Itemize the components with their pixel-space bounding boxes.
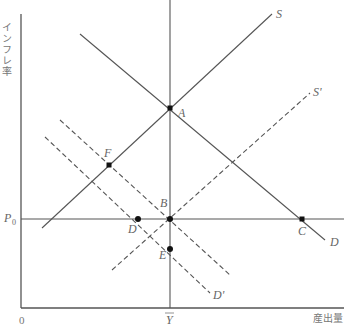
supply-curve-s — [42, 14, 272, 228]
label-s: S — [276, 7, 282, 21]
demand-curve-d — [80, 34, 325, 240]
svg-text:インフレ率: インフレ率 — [1, 22, 12, 77]
point-f — [107, 163, 112, 168]
svg-text:P: P — [3, 211, 12, 225]
y-axis-label: インフレ率 — [1, 22, 12, 77]
label-s-prime: S' — [313, 85, 322, 99]
label-point-c: C — [298, 224, 307, 238]
label-point-e: E — [158, 248, 167, 262]
x-axis-label: 産出量 — [313, 312, 343, 324]
point-c — [300, 217, 305, 222]
point-a — [168, 106, 173, 111]
demand-curve-d-prime — [45, 137, 210, 293]
demand-curve-dashed-upper — [60, 120, 230, 275]
label-point-a: A — [177, 106, 186, 120]
label-d-prime: D' — [212, 288, 225, 302]
x-tick-label-ybar: Y — [166, 313, 174, 327]
supply-curve-s-prime — [112, 93, 310, 270]
point-e — [167, 246, 173, 252]
y-tick-label-p0: P 0 — [3, 211, 16, 227]
label-point-d: D — [127, 222, 137, 236]
point-b — [167, 216, 173, 222]
label-point-b: B — [160, 196, 168, 210]
svg-text:0: 0 — [12, 218, 16, 227]
ad-as-diagram: インフレ率 0 産出量 Y P 0 S S' D D' A F B D E C — [0, 0, 347, 329]
origin-label: 0 — [19, 314, 25, 326]
label-point-f: F — [103, 146, 112, 160]
label-d: D — [329, 235, 339, 249]
